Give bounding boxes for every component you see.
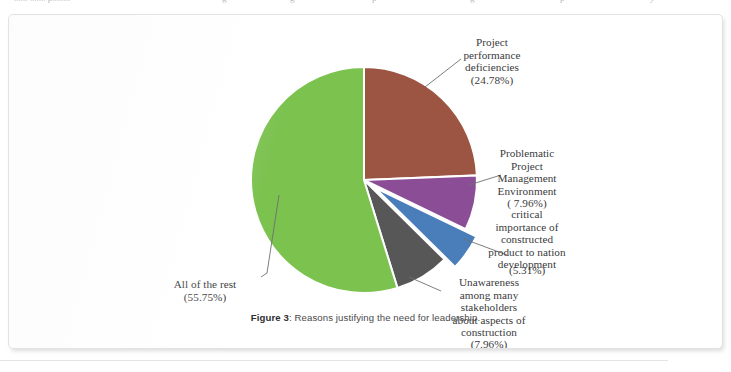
figure-caption-label: Figure 3 [251,312,289,323]
pie-chart: Project performance deficiencies (24.78%… [9,15,722,348]
pie-label-text: Unawareness among many stakeholders abou… [453,276,526,338]
pie-label-value: (7.96%) [413,338,565,349]
pie-label-text: Problematic Project Management Environme… [498,147,557,196]
figure-caption-text: : Reasons justifying the need for leader… [289,312,480,323]
pie-label-project-performance-deficiencies: Project performance deficiencies (24.78%… [422,24,562,98]
pie-label-text: critical importance of constructed produ… [488,208,565,270]
pie-label-critical-importance: critical importance of constructed produ… [460,196,594,270]
clipped-fragment: p [560,0,565,3]
clipped-fragment: ...... ....... p........ [14,0,70,3]
pie-slice-group [251,67,477,293]
pie-label-value: (55.75%) [133,291,277,303]
pie-label-text: Project performance deficiencies [463,36,520,73]
pie-label-unawareness: Unawareness among many stakeholders abou… [413,264,565,349]
pie-label-text: All of the rest [174,278,237,290]
clipped-fragment: g [222,0,227,3]
clipped-fragment: g [290,0,295,3]
page-divider [0,360,668,361]
pie-chart-svg [9,15,722,348]
figure-panel: Project performance deficiencies (24.78%… [8,14,723,349]
figure-caption: Figure 3: Reasons justifying the need fo… [9,312,722,323]
clipped-fragment: p [372,0,377,3]
pie-label-value: (24.78%) [422,74,562,86]
clipped-fragment: y [650,0,655,3]
clipped-fragment: g [470,0,475,3]
pie-label-all-of-the-rest: All of the rest (55.75%) [133,266,277,316]
clipped-text-row: ...... ....... p........ g g p g p y [0,0,731,11]
